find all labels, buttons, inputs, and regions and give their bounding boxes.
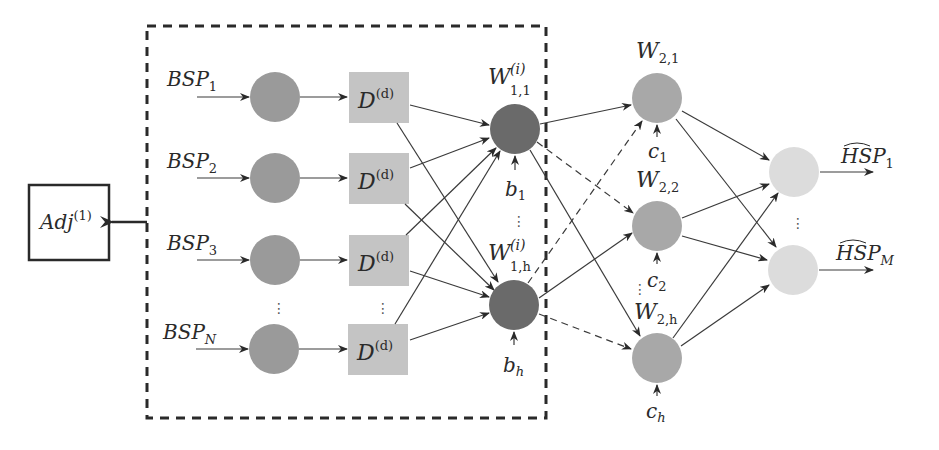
input-label-2: BSP2 [166, 149, 217, 176]
hidden2-ellipsis: ⋮ [633, 281, 647, 297]
input-label-3: BSP3 [166, 231, 217, 258]
svg-text:1,h: 1,h [510, 259, 531, 274]
hidden2-node-1: W2,1 c1 [632, 38, 682, 165]
svg-text:(i): (i) [510, 61, 525, 77]
svg-text:HSP1: HSP1 [840, 144, 894, 171]
hidden2-node-2: W2,2 c2 [632, 167, 682, 294]
svg-text:ch: ch [646, 399, 666, 425]
hidden2-node-h: W2,h ch [632, 299, 682, 425]
input-ellipsis: ⋮ [272, 300, 286, 316]
hidden1-node-1: W (i) 1,1 b1 [488, 61, 540, 203]
input-node-n [249, 324, 299, 374]
svg-text:W2,h: W2,h [634, 299, 678, 327]
input-row-2: BSP2 D(d) [166, 149, 409, 204]
hidden1-node-h: W (i) 1,h bh [488, 237, 539, 379]
adj-label: Adj [38, 210, 73, 234]
svg-text:c2: c2 [647, 268, 666, 294]
delay-to-hidden1-edges [395, 105, 500, 340]
input-label-n: BSPN [162, 320, 217, 347]
svg-text:(i): (i) [510, 237, 525, 253]
neural-network-diagram: Adj(1) BSP1 D(d) BSP2 D(d) BSP3 D(d) ⋮ ⋮… [0, 0, 939, 450]
adjacency-block: Adj(1) [29, 185, 109, 260]
output-node-1: HSP1 [769, 143, 894, 197]
svg-text:HSPM: HSPM [835, 241, 895, 268]
svg-text:W2,2: W2,2 [636, 167, 679, 195]
output-ellipsis: ⋮ [791, 215, 805, 231]
input-label-1: BSP1 [166, 67, 217, 94]
svg-text:b1: b1 [505, 177, 526, 203]
input-row-1: BSP1 D(d) [166, 67, 409, 123]
svg-text:W2,1: W2,1 [636, 38, 679, 66]
adj-superscript: (1) [73, 208, 91, 223]
delay-ellipsis: ⋮ [376, 300, 390, 316]
hidden1-ellipsis: ⋮ [512, 213, 526, 229]
svg-text:bh: bh [503, 353, 524, 379]
svg-text:1,1: 1,1 [510, 83, 531, 98]
input-node-3 [250, 235, 300, 285]
hidden2-to-output-edges [673, 111, 778, 346]
svg-text:c1: c1 [648, 139, 667, 165]
input-row-n: BSPN D(d) [162, 320, 408, 375]
input-node-1 [250, 72, 300, 122]
output-node-m: HSPM [768, 240, 895, 295]
input-row-3: BSP3 D(d) [166, 231, 409, 286]
input-node-2 [250, 153, 300, 203]
